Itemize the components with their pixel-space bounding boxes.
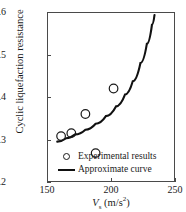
approximate-curve: [57, 15, 154, 142]
legend-label-curve: Approximate curve: [76, 163, 152, 176]
legend-item-experimental: Experimental results: [56, 150, 156, 163]
solid-line-icon: [56, 169, 76, 171]
plot-data-layer: [0, 0, 186, 212]
chart-figure: Cyclic liquefaction resistance 0.20.30.4…: [0, 0, 186, 212]
data-point: [81, 110, 90, 119]
data-point: [57, 132, 66, 141]
experimental-results-markers: [57, 84, 118, 157]
data-point: [109, 84, 118, 93]
legend: Experimental results Approximate curve: [56, 150, 156, 176]
open-circle-icon: [56, 153, 76, 160]
legend-label-experimental: Experimental results: [76, 150, 156, 163]
legend-item-curve: Approximate curve: [56, 163, 156, 176]
